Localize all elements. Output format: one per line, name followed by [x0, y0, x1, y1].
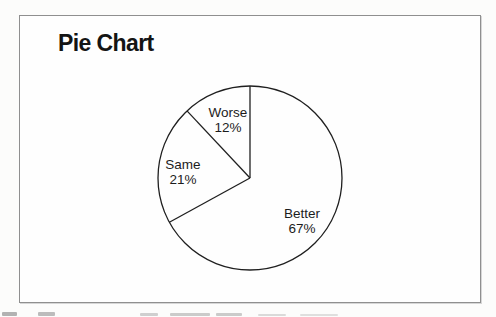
- slice-label-same: Same21%: [165, 157, 200, 187]
- slice-percent: 12%: [209, 120, 248, 135]
- clipped-text-fragment: [170, 313, 210, 316]
- slice-label-better: Better67%: [284, 206, 320, 236]
- slice-name: Same: [165, 157, 200, 172]
- scanned-page: { "header": { "title": "Pie Chart" }, "c…: [0, 0, 496, 317]
- slice-name: Better: [284, 206, 320, 221]
- pie-chart: [20, 16, 480, 302]
- slice-label-worse: Worse12%: [209, 105, 248, 135]
- clipped-text-fragment: [216, 313, 242, 316]
- clipped-text-fragment: [38, 312, 55, 316]
- slice-percent: 67%: [284, 221, 320, 236]
- clipped-text-fragment: [300, 314, 338, 316]
- chart-frame: Pie Chart Better67%Same21%Worse12%: [19, 15, 481, 303]
- slice-name: Worse: [209, 105, 248, 120]
- clipped-text-fragment: [258, 314, 286, 316]
- clipped-text-fragment: [140, 313, 158, 316]
- slice-percent: 21%: [165, 172, 200, 187]
- clipped-text-fragment: [2, 312, 17, 316]
